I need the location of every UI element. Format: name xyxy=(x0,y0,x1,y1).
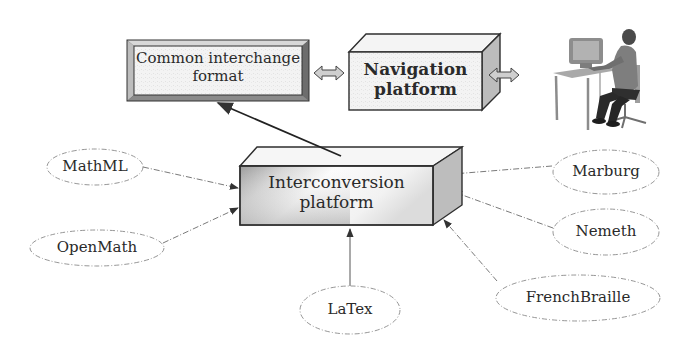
double-arrow-format-navigation xyxy=(314,66,344,80)
ellipse-mathml xyxy=(47,149,143,185)
edge-marburg-to-interconversion xyxy=(453,166,552,174)
ellipse-latex xyxy=(300,286,400,334)
edge-mathml-to-interconversion xyxy=(143,167,238,188)
edge-nemeth-to-interconversion xyxy=(454,192,553,228)
ellipse-openmath xyxy=(30,230,164,266)
ellipse-nemeth xyxy=(553,209,659,255)
edge-openmath-to-interconversion xyxy=(163,208,238,243)
edge-frenchbraille-to-interconversion xyxy=(444,220,497,281)
diagram-canvas xyxy=(0,0,695,342)
ellipse-frenchbraille xyxy=(496,275,660,321)
node-common-interchange-format xyxy=(127,40,309,101)
node-navigation-platform xyxy=(349,34,500,110)
ellipse-marburg xyxy=(553,150,659,194)
node-interconversion-platform xyxy=(240,147,462,225)
person-at-computer-icon xyxy=(553,29,646,130)
